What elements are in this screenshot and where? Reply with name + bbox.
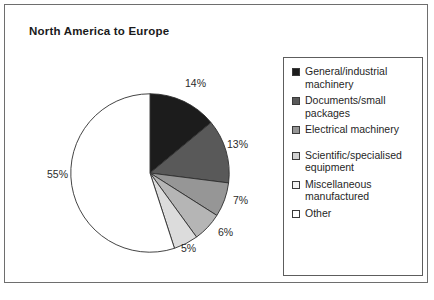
- legend-item[interactable]: Other: [292, 207, 418, 220]
- pie-svg: [69, 92, 231, 254]
- legend-item[interactable]: General/industrial machinery: [292, 65, 418, 90]
- legend-item[interactable]: Electrical machinery: [292, 123, 418, 136]
- legend-list: General/industrial machineryDocuments/sm…: [292, 65, 418, 223]
- pie-slice-percent-label: 13%: [227, 138, 248, 150]
- pie-slice-percent-label: 7%: [233, 194, 248, 206]
- legend-item[interactable]: Documents/small packages: [292, 94, 418, 119]
- legend-item-label: Other: [305, 207, 331, 220]
- legend-item-label: Miscellaneous manufactured: [305, 178, 418, 203]
- legend-swatch-icon: [292, 126, 300, 134]
- chart-title: North America to Europe: [29, 25, 169, 37]
- legend-item-label: Documents/small packages: [305, 94, 418, 119]
- legend-item[interactable]: Scientific/specialised equipment: [292, 149, 418, 174]
- legend-swatch-icon: [292, 181, 300, 189]
- pie-chart-graphic: [69, 92, 231, 254]
- legend-swatch-icon: [292, 210, 300, 218]
- pie-slices-group: [71, 94, 229, 252]
- pie-chart-screenshot: North America to Europe 14%13%7%6%5%55% …: [0, 0, 434, 300]
- pie-slice-percent-label: 6%: [218, 226, 233, 238]
- chart-frame: North America to Europe 14%13%7%6%5%55% …: [4, 4, 428, 283]
- legend-spacer: [292, 140, 418, 149]
- legend-box: General/industrial machineryDocuments/sm…: [283, 57, 423, 276]
- pie-slice-percent-label: 55%: [47, 168, 68, 180]
- legend-item-label: Electrical machinery: [305, 123, 399, 136]
- pie-slice-percent-label: 14%: [185, 77, 206, 89]
- legend-swatch-icon: [292, 152, 300, 160]
- legend-item[interactable]: Miscellaneous manufactured: [292, 178, 418, 203]
- legend-item-label: Scientific/specialised equipment: [305, 149, 418, 174]
- legend-swatch-icon: [292, 68, 300, 76]
- legend-swatch-icon: [292, 97, 300, 105]
- pie-slice-percent-label: 5%: [181, 242, 196, 254]
- legend-item-label: General/industrial machinery: [305, 65, 418, 90]
